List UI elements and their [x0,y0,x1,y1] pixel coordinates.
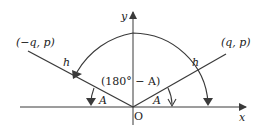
obtuse-angle-arc [77,33,208,103]
x-axis-label: x [239,111,246,124]
origin-label: O [134,110,143,123]
right-angle-label: A [152,94,161,107]
diagram-canvas: y x O (−q, p) (q, p) h h (180° − A) A A [0,0,260,131]
obtuse-angle-label: (180° − A) [101,75,160,88]
obtuse-arc-arrowhead-right-icon [203,98,213,106]
left-angle-arrowhead-icon [86,98,96,106]
left-hypotenuse-label: h [63,56,70,69]
y-axis-label: y [120,10,128,23]
right-hypotenuse-label: h [192,56,199,69]
left-angle-label: A [98,94,107,107]
point-right-label: (q, p) [221,36,251,49]
point-left-label: (−q, p) [16,36,55,49]
